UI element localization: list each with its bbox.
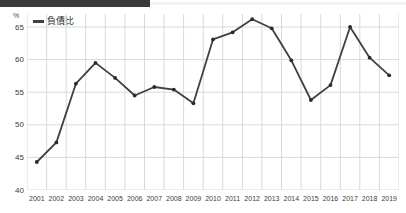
header-bar-extension xyxy=(150,2,406,5)
plot-area xyxy=(27,14,399,190)
chart-series-line xyxy=(27,14,399,190)
header-bar xyxy=(0,0,150,7)
chart-container: % 負債比 404550556065 200120022003200420052… xyxy=(0,0,406,213)
y-axis-unit-label: % xyxy=(13,11,19,20)
y-axis-tick-40: 40 xyxy=(2,186,24,195)
y-axis-tick-50: 50 xyxy=(2,120,24,129)
y-axis-tick-55: 55 xyxy=(2,88,24,97)
y-axis-tick-45: 45 xyxy=(2,153,24,162)
y-axis-tick-65: 65 xyxy=(2,23,24,32)
x-axis-tick-2019: 2019 xyxy=(378,194,400,203)
y-axis-tick-60: 60 xyxy=(2,55,24,64)
